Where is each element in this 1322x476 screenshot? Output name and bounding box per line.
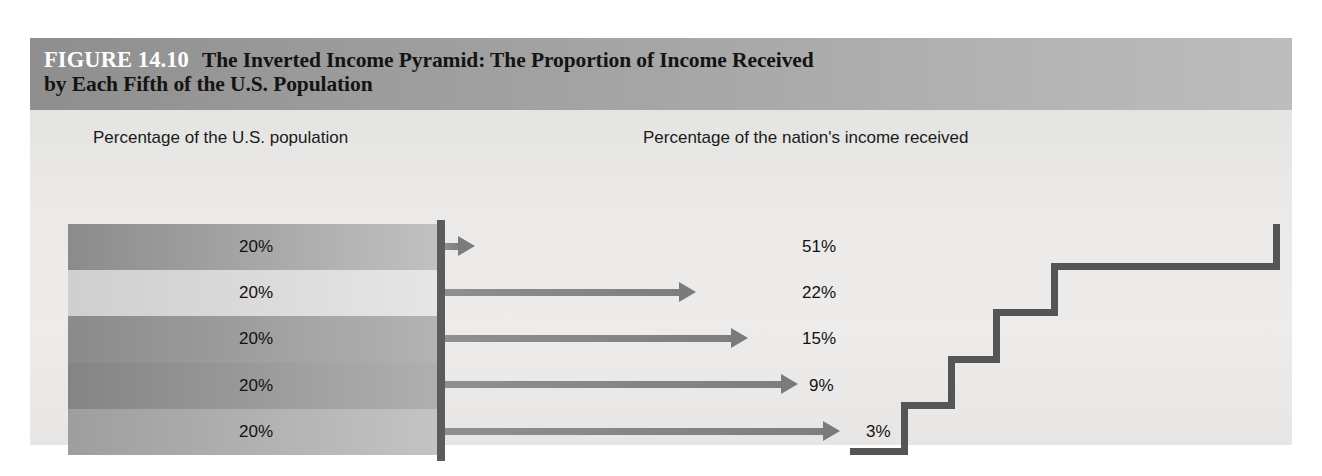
- pyramid-bottom-edge: [857, 448, 908, 455]
- flow-arrow-shaft: [445, 428, 823, 435]
- pyramid-step-edge-horizontal: [948, 356, 1000, 363]
- flow-arrow-head: [781, 374, 798, 394]
- pyramid-step-edge-horizontal: [901, 402, 955, 409]
- flow-arrow-head: [679, 282, 696, 302]
- flow-arrow-shaft: [445, 335, 731, 342]
- flow-arrow-icon: [445, 288, 696, 297]
- figure-title-text: The Inverted Income Pyramid: The Proport…: [202, 48, 814, 72]
- flow-arrow-head: [458, 236, 475, 256]
- flow-arrow-head: [731, 328, 748, 348]
- flow-arrow-icon: [445, 334, 748, 343]
- figure-title-line-1: FIGURE 14.10The Inverted Income Pyramid:…: [44, 47, 1292, 72]
- income-bar-label: 3%: [866, 422, 891, 442]
- chart-panel: Percentage of the U.S. population Percen…: [30, 110, 1292, 445]
- flow-arrow-icon: [445, 427, 840, 436]
- pyramid-step-edge-horizontal: [1051, 263, 1280, 270]
- figure-number-label: FIGURE 14.10: [44, 47, 189, 72]
- flow-arrow-shaft: [445, 381, 781, 388]
- income-pyramid-group: 51%22%15%9%3%: [30, 110, 1292, 445]
- income-bar-label: 22%: [802, 283, 836, 303]
- flow-arrow-head: [823, 421, 840, 441]
- income-bar-label: 51%: [802, 237, 836, 257]
- flow-arrow-shaft: [445, 243, 458, 250]
- income-bar-label: 15%: [802, 329, 836, 349]
- figure-title-band: FIGURE 14.10The Inverted Income Pyramid:…: [30, 38, 1292, 110]
- income-bar-label: 9%: [809, 376, 834, 396]
- figure-title-line-2: by Each Fifth of the U.S. Population: [44, 72, 1292, 96]
- pyramid-step-edge-horizontal: [993, 309, 1058, 316]
- figure-container: FIGURE 14.10The Inverted Income Pyramid:…: [30, 38, 1292, 445]
- flow-arrow-shaft: [445, 289, 679, 296]
- flow-arrow-icon: [445, 380, 798, 389]
- flow-arrow-icon: [445, 242, 475, 251]
